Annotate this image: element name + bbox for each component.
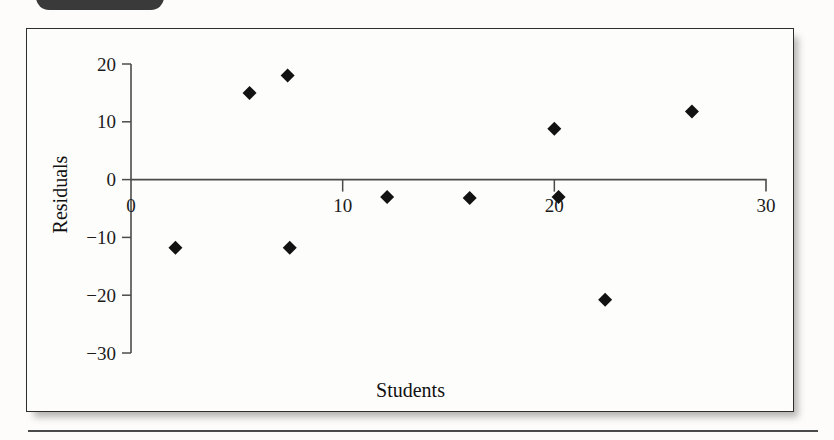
- x-axis-tick-label: 10: [333, 195, 352, 216]
- figure-frame: 20100−10−20−300102030StudentsResiduals: [26, 28, 794, 412]
- x-axis-line: [131, 180, 766, 192]
- data-point-marker: [380, 190, 394, 204]
- scatter-plot: 20100−10−20−300102030StudentsResiduals: [27, 29, 793, 411]
- x-axis-tick-label: 30: [757, 195, 776, 216]
- y-axis-tick-label: −20: [86, 285, 116, 306]
- y-axis-tick-label: −10: [86, 227, 116, 248]
- y-axis-title: Residuals: [49, 155, 71, 233]
- data-point-marker: [685, 104, 699, 118]
- chart-canvas: 20100−10−20−300102030StudentsResiduals: [27, 29, 793, 411]
- data-point-marker: [547, 122, 561, 136]
- y-axis-tick-label: 10: [97, 111, 116, 132]
- data-point-marker: [243, 86, 257, 100]
- y-axis-tick-label: −30: [86, 343, 116, 364]
- page-tab-marker: [36, 0, 164, 10]
- x-axis-tick-label: 0: [126, 195, 136, 216]
- x-axis-title: Students: [376, 379, 445, 401]
- page-background: 20100−10−20−300102030StudentsResiduals: [0, 0, 834, 440]
- data-point-marker: [283, 241, 297, 255]
- data-point-marker: [463, 191, 477, 205]
- page-divider-rule: [28, 430, 818, 432]
- y-axis-tick-label: 20: [97, 54, 116, 75]
- data-point-marker: [168, 241, 182, 255]
- data-point-marker: [598, 293, 612, 307]
- y-axis-tick-label: 0: [107, 169, 117, 190]
- data-point-marker: [281, 69, 295, 83]
